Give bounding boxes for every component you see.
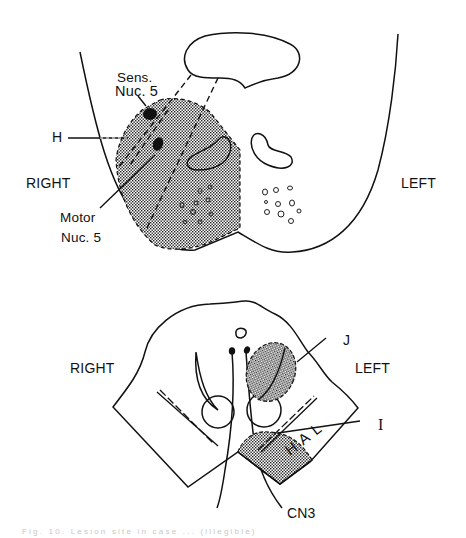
cerebral-aqueduct xyxy=(236,328,246,338)
side-label-left-bottom: LEFT xyxy=(355,361,390,376)
cn3-fiber-right xyxy=(217,352,233,508)
h-label: H xyxy=(52,130,62,145)
sens-nuc-label-line2: Nuc. 5 xyxy=(115,84,158,99)
midbrain-section xyxy=(113,301,358,508)
fourth-ventricle xyxy=(185,33,300,88)
side-label-right-bottom: RIGHT xyxy=(70,361,115,376)
i-label: I xyxy=(378,417,384,432)
sensory-nucleus-5 xyxy=(143,108,157,120)
cn3-nucleus-right xyxy=(229,347,235,355)
red-nucleus-right xyxy=(202,396,234,428)
side-label-right-top: RIGHT xyxy=(26,176,71,191)
neuroanatomy-figure: HAL xyxy=(0,0,466,538)
figure-caption: Fig. 10. Lesion site in case ... (illegi… xyxy=(22,527,257,536)
side-label-left-top: LEFT xyxy=(401,176,436,191)
cn3-nucleus-left xyxy=(243,345,251,354)
cn3-label: CN3 xyxy=(287,506,316,521)
motor-nuc-label-line2: Nuc. 5 xyxy=(61,230,101,245)
bean-structure-right xyxy=(251,134,292,169)
midbrain-outline xyxy=(113,301,358,487)
motor-nuc-label-line1: Motor xyxy=(60,210,96,225)
j-label: J xyxy=(343,333,350,348)
